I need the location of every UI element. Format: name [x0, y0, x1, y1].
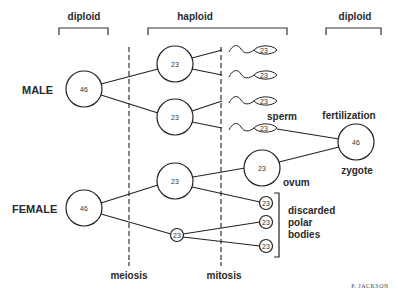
male-cell-1-count: 23	[171, 61, 179, 68]
polar-label: polar	[288, 217, 313, 228]
sperm-tail-icon	[229, 124, 254, 131]
sperm-tail-icon	[229, 46, 254, 53]
polar-body-3-count: 23	[262, 243, 270, 250]
female-label: FEMALE	[12, 203, 57, 215]
gametogenesis-diagram: diploid haploid diploid	[0, 0, 398, 299]
header-diploid-left: diploid	[68, 11, 101, 22]
polar-body-2-count: 23	[262, 219, 270, 226]
svg-text:23: 23	[260, 47, 268, 54]
header-diploid-right: diploid	[339, 11, 372, 22]
sperm-tail-icon	[229, 71, 254, 78]
svg-text:23: 23	[260, 72, 268, 79]
header-brackets	[59, 28, 381, 35]
male-label: MALE	[22, 84, 53, 96]
sperm-1: 23	[229, 46, 277, 55]
female-parent-count: 46	[80, 205, 88, 212]
female-cell-1-count: 23	[171, 178, 179, 185]
header-haploid: haploid	[177, 11, 213, 22]
ovum-label: ovum	[283, 177, 310, 188]
fertilization-label: fertilization	[322, 110, 375, 121]
zygote-count: 46	[352, 139, 360, 146]
artist-credit: P. JACKSON	[351, 283, 389, 289]
bodies-label: bodies	[288, 229, 321, 240]
mitosis-label: mitosis	[206, 270, 241, 281]
male-cell-2-count: 23	[171, 114, 179, 121]
ovum-count: 23	[258, 165, 266, 172]
discarded-label: discarded	[288, 205, 335, 216]
svg-text:23: 23	[260, 125, 268, 132]
sperm-4: 23	[229, 124, 277, 133]
bracket-diploid-right	[326, 28, 381, 35]
polar-bodies-bracket	[274, 193, 279, 257]
sperm-label: sperm	[267, 111, 297, 122]
zygote-label: zygote	[341, 165, 373, 176]
male-parent-count: 46	[80, 86, 88, 93]
sperm-2: 23	[229, 71, 277, 80]
meiosis-label: meiosis	[110, 270, 148, 281]
sperm-3: 23	[229, 97, 277, 106]
bracket-haploid	[148, 28, 287, 35]
bracket-diploid-left	[59, 28, 108, 35]
svg-text:23: 23	[260, 98, 268, 105]
female-polar-count: 23	[173, 232, 181, 239]
polar-body-1-count: 23	[262, 200, 270, 207]
sperm-tail-icon	[229, 97, 254, 104]
